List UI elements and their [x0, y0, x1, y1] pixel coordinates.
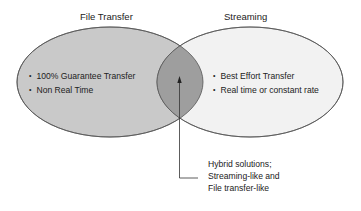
hybrid-callout: Hybrid solutions; Streaming-like and Fil… [208, 158, 280, 194]
list-item: Non Real Time [29, 83, 135, 97]
list-item: Real time or constant rate [213, 83, 319, 97]
file-transfer-list: 100% Guarantee Transfer Non Real Time [29, 69, 135, 97]
callout-line: File transfer-like [208, 182, 280, 194]
file-transfer-title: File Transfer [80, 11, 133, 22]
callout-line: Streaming-like and [208, 170, 280, 182]
venn-diagram [0, 0, 361, 211]
streaming-title: Streaming [224, 11, 267, 22]
list-item: 100% Guarantee Transfer [29, 69, 135, 83]
list-item: Best Effort Transfer [213, 69, 319, 83]
callout-line: Hybrid solutions; [208, 158, 280, 170]
streaming-list: Best Effort Transfer Real time or consta… [213, 69, 319, 97]
